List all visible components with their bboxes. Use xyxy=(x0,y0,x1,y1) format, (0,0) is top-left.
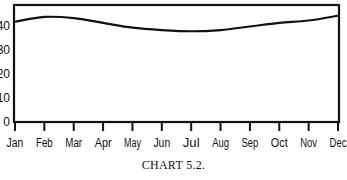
y-tick-label: 10 xyxy=(0,91,10,105)
x-tick-label: Nov xyxy=(300,136,317,150)
y-tick-label: 30 xyxy=(0,43,10,57)
y-tick-label: 40 xyxy=(0,19,10,33)
x-axis-ticks xyxy=(15,122,338,131)
y-axis-labels: 010203040 xyxy=(0,19,10,129)
x-tick-label: Apr xyxy=(95,136,112,150)
x-tick-label: Feb xyxy=(36,136,53,150)
x-tick-label: Jan xyxy=(7,136,24,150)
x-tick-label: Oct xyxy=(271,136,288,150)
x-tick-label: Aug xyxy=(212,136,229,150)
x-tick-label: Jul xyxy=(183,136,200,150)
x-tick-label: Sep xyxy=(242,136,259,150)
y-tick-label: 0 xyxy=(3,115,10,129)
data-line xyxy=(15,16,338,32)
x-tick-label: Jun xyxy=(153,136,170,150)
x-axis-labels: JanFebMarAprMayJunJulAugSepOctNovDec xyxy=(7,136,347,150)
line-chart: 010203040 JanFebMarAprMayJunJulAugSepOct… xyxy=(0,0,347,160)
x-tick-label: Dec xyxy=(330,136,347,150)
y-tick-label: 20 xyxy=(0,67,10,81)
chart-caption: CHART 5.2. xyxy=(0,158,347,173)
x-tick-label: Mar xyxy=(65,136,82,150)
x-tick-label: May xyxy=(124,136,141,150)
